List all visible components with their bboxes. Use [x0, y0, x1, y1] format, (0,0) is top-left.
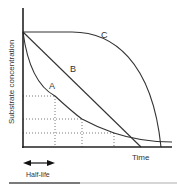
curve-b: [23, 32, 141, 147]
x-axis-label: Time: [132, 153, 150, 162]
curve-c: [23, 32, 161, 147]
half-life-guides: [23, 96, 114, 147]
kinetics-chart: C B A Time Substrate concentration Half-…: [0, 0, 177, 190]
half-life-arrow-icon: [23, 160, 55, 166]
curve-a: [23, 32, 172, 142]
curve-c-label: C: [101, 30, 108, 40]
half-life-label: Half-life: [26, 171, 50, 178]
bottom-divider-light: [80, 182, 177, 184]
y-axis-label: Substrate concentration: [7, 40, 16, 125]
bottom-divider-dark: [9, 182, 80, 184]
curve-b-label: B: [70, 64, 76, 74]
curve-a-label: A: [49, 81, 55, 91]
